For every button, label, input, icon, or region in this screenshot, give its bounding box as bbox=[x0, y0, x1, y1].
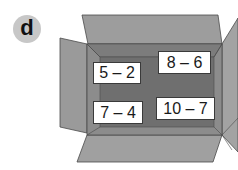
box-top-flap bbox=[82, 15, 222, 44]
card-expression: 5 – 2 bbox=[99, 64, 135, 82]
subtraction-card-4: 10 – 7 bbox=[156, 97, 215, 120]
subtraction-card-1: 5 – 2 bbox=[93, 62, 141, 84]
box-left-flap bbox=[60, 38, 87, 133]
card-expression: 7 – 4 bbox=[100, 104, 136, 122]
subtraction-card-2: 8 – 6 bbox=[158, 51, 211, 74]
box-bottom-flap bbox=[77, 135, 222, 162]
open-box-illustration bbox=[0, 0, 238, 170]
box-right-flap bbox=[222, 18, 238, 152]
card-expression: 8 – 6 bbox=[167, 54, 203, 72]
card-expression: 10 – 7 bbox=[163, 100, 207, 118]
subtraction-card-3: 7 – 4 bbox=[93, 101, 143, 124]
